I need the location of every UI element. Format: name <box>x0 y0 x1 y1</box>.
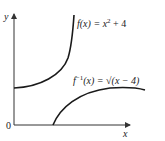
label-inv-rest: (x) = √(x − 4) <box>83 75 140 87</box>
y-axis-label: y <box>3 11 9 22</box>
function-inverse-plot: y 0 x f(x) = x2 + 4 f−1(x) = √(x − 4) <box>0 0 165 141</box>
x-axis-label: x <box>122 128 128 139</box>
label-f: f(x) = x2 + 4 <box>77 17 126 30</box>
label-f-rest: + 4 <box>111 18 127 29</box>
label-f-inverse: f−1(x) = √(x − 4) <box>73 74 140 87</box>
curve-f <box>14 15 74 88</box>
curve-f-inverse <box>53 88 145 125</box>
origin-label: 0 <box>6 120 11 131</box>
label-f-func: f(x) = x <box>77 18 108 30</box>
